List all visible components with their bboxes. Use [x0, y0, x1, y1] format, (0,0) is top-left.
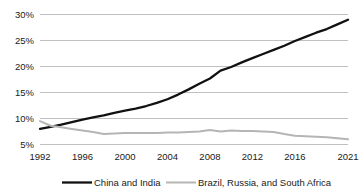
- series-line-brazil-russia-south-africa: [40, 121, 348, 139]
- y-tick-label-25: 25%: [15, 35, 35, 46]
- series-line-china-and-india: [40, 20, 348, 129]
- y-tick-label-10: 10%: [15, 113, 35, 124]
- y-tick-label-30: 30%: [15, 9, 35, 20]
- chart-canvas: 30% 25% 20% 15% 10% 5% 19921996200020042…: [0, 0, 361, 196]
- x-tick-label-2016: 2016: [284, 151, 305, 162]
- x-axis-tick-labels: 19921996200020042008201220162021: [29, 151, 358, 162]
- x-tick-label-2021: 2021: [337, 151, 358, 162]
- x-tick-label-1992: 1992: [29, 151, 50, 162]
- series-group: [40, 20, 348, 140]
- line-chart: 30% 25% 20% 15% 10% 5% 19921996200020042…: [0, 0, 361, 196]
- y-tick-label-15: 15%: [15, 87, 35, 98]
- y-tick-label-20: 20%: [15, 61, 35, 72]
- x-tick-label-2012: 2012: [242, 151, 263, 162]
- x-tick-label-2000: 2000: [114, 151, 135, 162]
- gridlines-group: [40, 15, 348, 145]
- legend-label-china-and-india: China and India: [94, 177, 161, 188]
- x-tick-label-1996: 1996: [72, 151, 93, 162]
- x-tick-label-2008: 2008: [199, 151, 220, 162]
- y-tick-label-5: 5%: [20, 139, 34, 150]
- x-tick-label-2004: 2004: [157, 151, 178, 162]
- legend-label-brazil-russia-south-africa: Brazil, Russia, and South Africa: [198, 177, 332, 188]
- y-axis-tick-labels: 30% 25% 20% 15% 10% 5%: [15, 9, 35, 150]
- legend: China and India Brazil, Russia, and Sout…: [62, 177, 332, 188]
